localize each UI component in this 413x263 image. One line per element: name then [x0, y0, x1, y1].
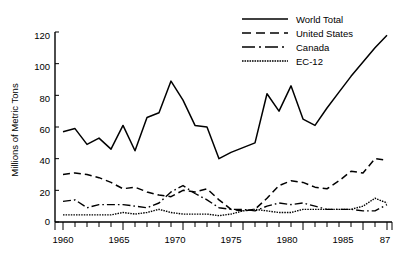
series-line-united-states — [63, 159, 387, 211]
legend-entry-world-total: World Total — [242, 14, 343, 25]
chart-series — [63, 35, 387, 216]
legend-entry-canada: Canada — [242, 42, 330, 53]
series-line-world-total — [63, 35, 387, 159]
chart-canvas: Millions of Metric Tons 0 20 40 60 80 10… — [0, 0, 413, 263]
y-tick-label: 100 — [34, 61, 50, 72]
y-axis-title: Millions of Metric Tons — [9, 83, 20, 177]
y-tick-label: 80 — [39, 93, 50, 104]
y-tick-label: 0 — [45, 216, 50, 227]
x-tick-label: 1965 — [108, 234, 129, 245]
x-tick-label: 1960 — [52, 234, 73, 245]
series-line-ec-12 — [63, 198, 387, 215]
legend-entry-ec-12: EC-12 — [242, 56, 323, 67]
y-tick-labels: 0 20 40 60 80 100 120 — [34, 30, 50, 227]
x-tick-label: 87 — [380, 234, 391, 245]
legend-label: Canada — [296, 42, 330, 53]
legend-entry-united-states: United States — [242, 28, 353, 39]
x-tick-label: 1980 — [276, 234, 297, 245]
y-tick-label: 40 — [39, 155, 50, 166]
line-chart: Millions of Metric Tons 0 20 40 60 80 10… — [0, 0, 413, 263]
x-tick-label: 1985 — [332, 234, 353, 245]
legend-label: EC-12 — [296, 56, 323, 67]
x-tick-labels: 1960 1965 1970 1975 1980 1985 87 — [52, 234, 390, 245]
y-tick-label: 120 — [34, 30, 50, 41]
y-tick-label: 20 — [39, 187, 50, 198]
chart-legend: World Total United States Canada EC-12 — [242, 14, 353, 67]
chart-axes — [55, 32, 392, 230]
x-tick-label: 1975 — [220, 234, 241, 245]
series-line-canada — [63, 186, 387, 211]
legend-label: World Total — [296, 14, 343, 25]
legend-label: United States — [296, 28, 353, 39]
y-tick-label: 60 — [39, 124, 50, 135]
x-tick-label: 1970 — [164, 234, 185, 245]
